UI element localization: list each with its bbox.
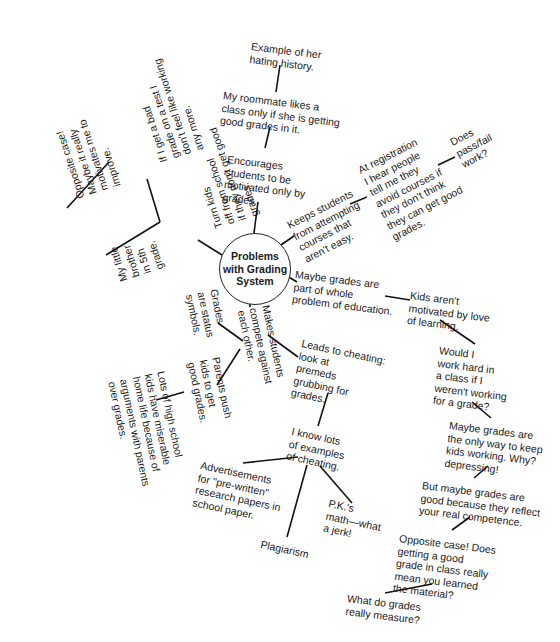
central-topic: Problems with Grading System [219,233,291,305]
edge-center-turnoff [198,240,222,255]
node-opposite-does: Opposite case! Does getting a good grade… [392,532,496,606]
central-topic-label: Problems with Grading System [223,250,287,288]
edge-iknow-plagiarism [287,465,307,537]
edge-turnoff-ifibad [147,179,160,222]
edge-roommate-example [276,65,280,92]
node-would-i: Would I work hard in a class if I weren'… [432,344,512,415]
mind-map: Problems with Grading System Example of … [0,0,560,642]
